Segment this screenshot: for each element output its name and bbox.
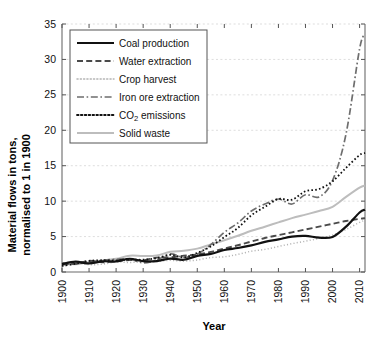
x-tick-label: 1950 xyxy=(191,280,203,304)
y-tick-label: 35 xyxy=(44,18,56,30)
y-tick-label: 0 xyxy=(50,266,56,278)
y-tick-label: 25 xyxy=(44,88,56,100)
x-tick-label: 1910 xyxy=(83,280,95,304)
legend-item-label[interactable]: Solid waste xyxy=(119,128,171,139)
legend-item-label[interactable]: Iron ore extraction xyxy=(119,92,200,103)
x-tick-label: 1990 xyxy=(299,280,311,304)
chart-legend: Coal productionWater extractionCrop harv… xyxy=(70,30,207,143)
x-tick-label: 1920 xyxy=(110,280,122,304)
y-tick-label: 5 xyxy=(50,230,56,242)
y-axis-tick-labels: 05101520253035 xyxy=(44,18,56,278)
x-tick-label: 1930 xyxy=(137,280,149,304)
x-tick-label: 1940 xyxy=(164,280,176,304)
x-tick-label: 1900 xyxy=(56,280,68,304)
x-tick-label: 1980 xyxy=(272,280,284,304)
legend-item-label[interactable]: Water extraction xyxy=(119,56,191,67)
x-axis-title: Year xyxy=(202,320,226,332)
line-chart: 05101520253035 1900191019201930194019501… xyxy=(0,0,383,340)
y-axis-title-line1: Material flows in tons, xyxy=(6,138,18,253)
series-line xyxy=(62,218,365,264)
y-tick-label: 20 xyxy=(44,124,56,136)
x-tick-label: 1960 xyxy=(218,280,230,304)
series-line xyxy=(62,153,365,266)
x-tick-label: 2010 xyxy=(353,280,365,304)
chart-container: 05101520253035 1900191019201930194019501… xyxy=(0,0,383,340)
x-tick-label: 1970 xyxy=(245,280,257,304)
x-tick-label: 2000 xyxy=(326,280,338,304)
y-tick-label: 30 xyxy=(44,53,56,65)
legend-item-label[interactable]: Crop harvest xyxy=(119,74,176,85)
y-tick-label: 10 xyxy=(44,195,56,207)
y-tick-label: 15 xyxy=(44,159,56,171)
y-axis-title-line2: normalised to 1 in 1900 xyxy=(20,134,32,256)
legend-item-label[interactable]: Coal production xyxy=(119,38,189,49)
x-axis-tick-labels: 1900191019201930194019501960197019801990… xyxy=(56,280,366,304)
